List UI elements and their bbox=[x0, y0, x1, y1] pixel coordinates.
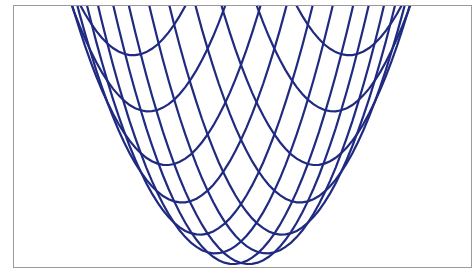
paraboloid-wireframe bbox=[13, 5, 472, 268]
plot-frame bbox=[13, 5, 472, 268]
wireframe-line bbox=[41, 5, 375, 253]
wireframe-line bbox=[107, 5, 441, 253]
